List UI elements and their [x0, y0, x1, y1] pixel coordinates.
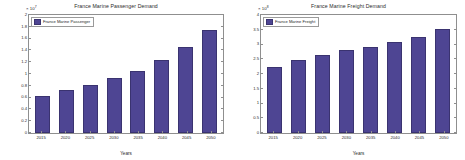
bar-series-passenger: [29, 15, 223, 133]
bar-2045: [178, 47, 193, 133]
y-tick-mark: [29, 120, 31, 121]
legend-passenger: France Marine Passenger: [31, 17, 94, 27]
x-tick-mark: [419, 131, 420, 133]
x-tick-mark: [322, 131, 323, 133]
y-tick-mark: [261, 58, 263, 59]
x-tick-mark: [187, 131, 188, 133]
y-tick-label: 2.5: [253, 57, 259, 61]
bar-slot: [197, 15, 221, 133]
y-tick-label: 0: [257, 131, 259, 135]
y-tick-mark-right: [221, 120, 223, 121]
x-tick-mark: [371, 131, 372, 133]
y-tick-mark: [261, 14, 263, 15]
y-tick-label: 0.4: [21, 107, 27, 111]
plot-area-freight: France Marine Freight 00.511.522.533.542…: [260, 14, 457, 134]
bar-2045: [411, 37, 426, 133]
y-tick-mark: [29, 85, 31, 86]
x-tick-label-2040: 2040: [390, 136, 399, 140]
y-tick-mark: [29, 108, 31, 109]
y-tick-label: 4: [257, 13, 259, 17]
y-tick-mark-right: [221, 85, 223, 86]
bar-slot: [102, 15, 126, 133]
y-tick-label: 3.5: [253, 28, 259, 32]
y-tick-mark: [261, 103, 263, 104]
x-tick-label-2050: 2050: [439, 136, 448, 140]
y-tick-label: 2: [257, 72, 259, 76]
bar-slot: [150, 15, 174, 133]
y-tick-label: 2: [25, 13, 27, 17]
y-tick-mark-right: [454, 117, 456, 118]
y-tick-label: 1.5: [253, 87, 259, 91]
y-axis-multiplier-passenger: × 107: [26, 5, 37, 11]
multiplier-base: × 10: [26, 6, 35, 11]
y-tick-mark: [261, 73, 263, 74]
bar-2015: [267, 67, 282, 133]
x-tick-mark: [211, 131, 212, 133]
y-tick-mark-right: [221, 26, 223, 27]
y-tick-mark: [261, 29, 263, 30]
y-tick-label: 0.2: [21, 119, 27, 123]
bar-slot: [382, 15, 406, 133]
y-tick-label: 1: [257, 101, 259, 105]
y-tick-label: 1.4: [21, 48, 27, 52]
chart-panel-freight: France Marine Freight Demand × 108 Milli…: [232, 0, 465, 160]
bar-slot: [430, 15, 454, 133]
legend-swatch-icon: [266, 19, 273, 25]
bar-2035: [130, 71, 145, 133]
plot-inner-freight: 00.511.522.533.5420152020202520302035204…: [261, 15, 456, 133]
plot-inner-passenger: 00.20.40.60.811.21.41.61.822015202020252…: [29, 15, 223, 133]
y-tick-mark-right: [221, 14, 223, 15]
bar-2015: [35, 96, 50, 133]
x-tick-label-2015: 2015: [269, 136, 278, 140]
y-tick-mark: [29, 97, 31, 98]
bar-slot: [406, 15, 430, 133]
bar-slot: [126, 15, 150, 133]
y-tick-mark: [261, 117, 263, 118]
y-tick-mark-right: [221, 108, 223, 109]
bar-2040: [387, 42, 402, 133]
x-tick-label-2035: 2035: [366, 136, 375, 140]
bar-slot: [311, 15, 335, 133]
bar-slot: [263, 15, 287, 133]
x-tick-label-2035: 2035: [133, 136, 142, 140]
y-tick-mark: [29, 61, 31, 62]
bar-2025: [315, 55, 330, 133]
y-tick-mark: [261, 44, 263, 45]
y-tick-mark: [29, 73, 31, 74]
bar-slot: [335, 15, 359, 133]
y-tick-label: 0.8: [21, 84, 27, 88]
y-tick-mark: [261, 88, 263, 89]
figure-container: France Marine Passenger Demand × 107 Mil…: [0, 0, 465, 160]
y-tick-mark-right: [221, 61, 223, 62]
legend-label-passenger: France Marine Passenger: [43, 20, 90, 24]
x-tick-mark: [346, 131, 347, 133]
y-tick-label: 0.5: [253, 116, 259, 120]
y-tick-mark-right: [454, 103, 456, 104]
y-tick-label: 1.8: [21, 25, 27, 29]
y-tick-mark: [29, 38, 31, 39]
x-axis-label-freight: Years: [260, 151, 457, 156]
chart-panel-passenger: France Marine Passenger Demand × 107 Mil…: [0, 0, 232, 160]
x-tick-mark: [298, 131, 299, 133]
bar-2030: [107, 78, 122, 133]
x-tick-mark: [41, 131, 42, 133]
bar-2020: [291, 60, 306, 133]
bar-2025: [83, 85, 98, 133]
multiplier-power: 8: [267, 5, 269, 9]
y-tick-mark-right: [221, 49, 223, 50]
x-tick-mark: [273, 131, 274, 133]
bar-slot: [287, 15, 311, 133]
y-tick-mark-right: [454, 132, 456, 133]
y-tick-mark-right: [221, 38, 223, 39]
y-tick-mark-right: [454, 88, 456, 89]
x-tick-label-2045: 2045: [182, 136, 191, 140]
legend-freight: France Marine Freight: [263, 17, 319, 27]
y-tick-label: 1.6: [21, 37, 27, 41]
x-tick-label-2050: 2050: [206, 136, 215, 140]
x-tick-mark: [444, 131, 445, 133]
bar-2035: [363, 47, 378, 133]
y-tick-label: 1.2: [21, 60, 27, 64]
x-tick-label-2020: 2020: [61, 136, 70, 140]
x-tick-label-2020: 2020: [293, 136, 302, 140]
x-tick-label-2030: 2030: [342, 136, 351, 140]
